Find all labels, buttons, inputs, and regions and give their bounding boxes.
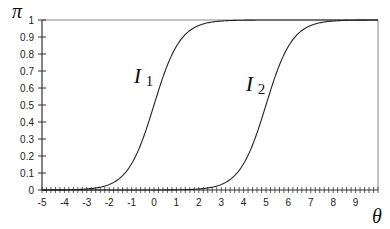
y-tick-label: 0.4 <box>20 117 34 128</box>
y-tick-label: 0 <box>28 185 34 196</box>
x-tick-label: -2 <box>105 197 114 208</box>
curves <box>42 20 378 190</box>
y-tick-label: 0.3 <box>20 134 34 145</box>
curve-label-i1: I <box>133 63 143 88</box>
x-tick-label: -5 <box>38 197 47 208</box>
x-tick-label: -4 <box>60 197 69 208</box>
curve-i2 <box>42 20 378 190</box>
x-tick-label: 2 <box>196 197 202 208</box>
curve-label-i2: I <box>245 71 255 96</box>
x-tick-label: -1 <box>127 197 136 208</box>
y-tick-label: 1 <box>28 15 34 26</box>
y-tick-label: 0.9 <box>20 32 34 43</box>
x-tick-label: 8 <box>330 197 336 208</box>
y-tick-label: 0.5 <box>20 100 34 111</box>
x-tick-label: 5 <box>263 197 269 208</box>
x-tick-label: 6 <box>286 197 292 208</box>
curve-label-subscript: 1 <box>146 73 154 89</box>
x-tick-label: 4 <box>241 197 247 208</box>
curve-label-subscript: 2 <box>258 81 266 97</box>
y-tick-label: 0.2 <box>20 151 34 162</box>
x-axis-label: θ <box>372 205 382 227</box>
curve-i1 <box>42 20 378 190</box>
chart: 00.10.20.30.40.50.60.70.80.91 -5-4-3-2-1… <box>0 0 390 229</box>
x-tick-label: 7 <box>308 197 314 208</box>
x-tick-label: 1 <box>174 197 180 208</box>
y-tick-label: 0.6 <box>20 83 34 94</box>
x-tick-label: 0 <box>151 197 157 208</box>
curve-labels: I1I2 <box>133 63 266 98</box>
x-tick-label: 3 <box>218 197 224 208</box>
x-tick-label: -3 <box>82 197 91 208</box>
y-tick-label: 0.1 <box>20 168 34 179</box>
y-axis-label: π <box>12 0 23 22</box>
y-tick-label: 0.8 <box>20 49 34 60</box>
plot-frame <box>42 20 378 190</box>
y-tick-label: 0.7 <box>20 66 34 77</box>
x-tick-label: 9 <box>353 197 359 208</box>
